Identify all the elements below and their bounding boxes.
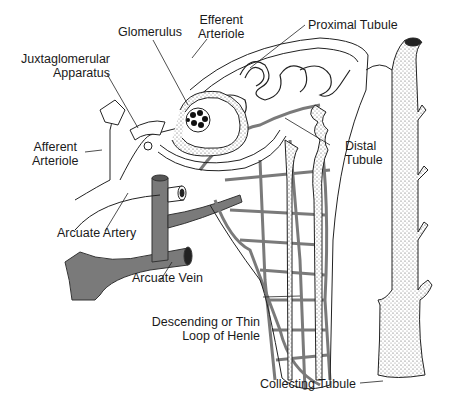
label-glomerulus: Glomerulus xyxy=(118,25,182,39)
label-arcuate-vein: Arcuate Vein xyxy=(132,271,203,285)
distal-tubule-shape xyxy=(285,105,328,380)
nephron-diagram: Glomerulus Efferent Arteriole Proximal T… xyxy=(0,0,453,403)
collecting-tubule-shape xyxy=(366,38,432,378)
label-efferent-arteriole: Efferent Arteriole xyxy=(198,13,245,41)
label-loop-of-henle: Descending or Thin Loop of Henle xyxy=(140,315,260,343)
label-collecting-tubule: Collecting Tubule xyxy=(260,377,356,391)
label-arcuate-artery: Arcuate Artery xyxy=(57,226,136,240)
label-afferent-arteriole: Afferent Arteriole xyxy=(32,140,79,168)
label-distal-tubule: Distal Tubule xyxy=(345,139,383,167)
label-proximal-tubule: Proximal Tubule xyxy=(308,18,398,32)
label-juxtaglomerular-apparatus: Juxtaglomerular Apparatus xyxy=(15,52,110,80)
